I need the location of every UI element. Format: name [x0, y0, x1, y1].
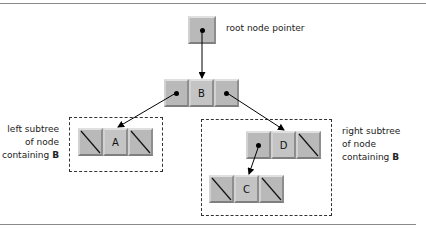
- null-slash-icon: [80, 130, 101, 154]
- root-pointer-label: root node pointer: [226, 22, 304, 35]
- node-b-left-link: [164, 79, 189, 107]
- right-subtree-label: right subtree of node containing B: [342, 125, 400, 164]
- node-a: A: [78, 128, 153, 156]
- left-subtree-line3: containing B: [0, 149, 59, 162]
- left-subtree-line3-prefix: containing: [2, 150, 52, 160]
- left-subtree-line1: left subtree: [0, 123, 59, 136]
- null-slash-icon: [261, 177, 282, 201]
- root-pointer-cell: [188, 16, 216, 44]
- node-b-right-link: [214, 79, 239, 107]
- left-subtree-line3-bold: B: [52, 150, 59, 160]
- pointer-dot-icon: [174, 91, 179, 96]
- node-c-right-null: [259, 175, 284, 203]
- right-subtree-line3-prefix: containing: [342, 152, 392, 162]
- null-slash-icon: [211, 177, 232, 201]
- right-subtree-line3-bold: B: [392, 152, 399, 162]
- left-subtree-line2: of node: [0, 136, 59, 149]
- node-c: C: [209, 175, 284, 203]
- node-d-value: D: [271, 131, 296, 159]
- top-rule: [0, 3, 426, 4]
- pointer-dot-icon: [256, 143, 261, 148]
- node-c-value: C: [234, 175, 259, 203]
- node-b-value: B: [189, 79, 214, 107]
- null-slash-icon: [130, 130, 151, 154]
- node-d-right-null: [296, 131, 321, 159]
- left-subtree-label: left subtree of node containing B: [0, 123, 59, 162]
- null-slash-icon: [298, 133, 319, 157]
- root-pointer-node: [188, 16, 216, 44]
- node-a-left-null: [78, 128, 103, 156]
- node-d: D: [246, 131, 321, 159]
- pointer-dot-icon: [200, 28, 205, 33]
- node-c-left-null: [209, 175, 234, 203]
- node-a-value: A: [103, 128, 128, 156]
- node-b: B: [164, 79, 239, 107]
- bottom-rule: [0, 224, 416, 225]
- node-d-left-link: [246, 131, 271, 159]
- right-subtree-line1: right subtree: [342, 125, 400, 138]
- pointer-dot-icon: [224, 91, 229, 96]
- right-subtree-line3: containing B: [342, 151, 400, 164]
- node-a-right-null: [128, 128, 153, 156]
- right-subtree-line2: of node: [342, 138, 400, 151]
